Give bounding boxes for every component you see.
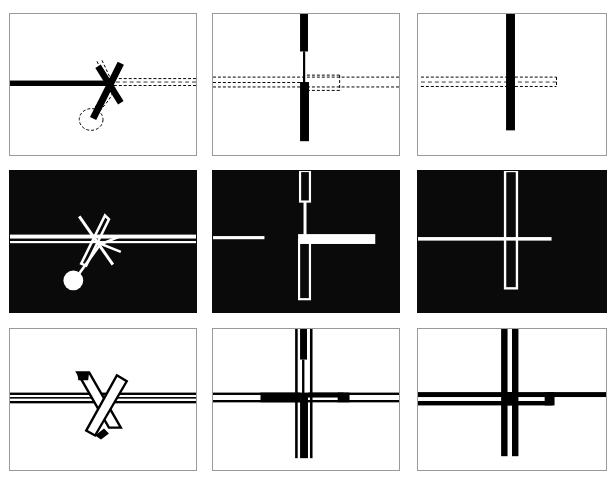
- white-horizontal-rule: [418, 237, 552, 241]
- panel-top-left-artwork: [10, 14, 196, 155]
- panel-top-right: [417, 13, 607, 156]
- panel-bottom-left-artwork: [10, 329, 196, 470]
- panel-middle-left: [9, 170, 197, 313]
- panel-top-right-artwork: [418, 14, 606, 155]
- panel-bottom-left: [9, 328, 197, 471]
- panel-top-center: [212, 13, 400, 156]
- horizontal-stub-right: [545, 392, 555, 405]
- panel-top-center-stage: [213, 14, 399, 155]
- panel-bottom-right-stage: [418, 329, 606, 470]
- panel-top-left: [9, 13, 197, 156]
- panel-bottom-right-artwork: [418, 329, 606, 470]
- horizontal-stub-right: [338, 393, 350, 403]
- thin-vertical-connector: [302, 360, 304, 395]
- solid-vertical-blade-top: [300, 329, 307, 360]
- panel-middle-right-stage: [418, 171, 606, 312]
- horizontal-rule-lower: [213, 400, 399, 402]
- panel-middle-right: [417, 170, 607, 313]
- thick-vertical-bar-bottom: [300, 82, 309, 141]
- dashed-band-right-cap: [213, 75, 340, 90]
- panel-bottom-center-artwork: [213, 329, 399, 470]
- panel-bottom-center-stage: [213, 329, 399, 470]
- panel-bottom-center: [212, 328, 400, 471]
- panel-middle-right-artwork: [418, 171, 606, 312]
- thin-vertical-line: [303, 51, 305, 86]
- panel-top-right-stage: [418, 14, 606, 155]
- panel-middle-center-stage: [213, 171, 399, 312]
- panel-top-center-artwork: [213, 14, 399, 155]
- white-outline-vertical-bar: [505, 171, 517, 288]
- white-outline-blade-bottom: [299, 240, 310, 299]
- white-thin-rule-left: [213, 236, 264, 239]
- figure-root: Scissors cutting a line — nine rendering…: [0, 0, 616, 487]
- panel-middle-left-stage: [10, 171, 196, 312]
- horizontal-rule-lower: [418, 401, 553, 405]
- white-horizontal-band: [10, 235, 196, 239]
- panel-middle-center-artwork: [213, 171, 399, 312]
- dashed-horizontal-band: [421, 77, 557, 86]
- thick-vertical-bar-top: [300, 14, 308, 51]
- panel-bottom-left-stage: [10, 329, 196, 470]
- thick-vertical-bar: [506, 14, 515, 130]
- panel-top-left-stage: [10, 14, 196, 155]
- blade-tip-notch: [77, 372, 89, 380]
- white-handle-circle: [63, 271, 83, 291]
- white-thin-vertical-line: [304, 202, 307, 237]
- panel-middle-left-artwork: [10, 171, 196, 312]
- panel-bottom-right: [417, 328, 607, 471]
- white-outline-blade-top: [300, 171, 310, 202]
- horizontal-rule-upper: [213, 393, 399, 395]
- crossing-fill: [507, 392, 512, 405]
- thick-horizontal-bar-left: [10, 81, 109, 86]
- solid-vertical-blade-bottom: [300, 394, 308, 458]
- horizontal-stub-left: [260, 393, 300, 403]
- panel-middle-center: [212, 170, 400, 313]
